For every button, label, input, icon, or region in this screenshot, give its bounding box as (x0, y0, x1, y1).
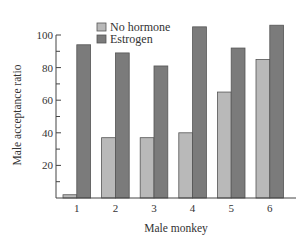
x-tick-label: 2 (113, 202, 119, 214)
y-tick-label: 20 (42, 159, 54, 171)
x-axis: 123456 (56, 198, 296, 214)
bar-estrogen-monkey-6 (270, 25, 284, 198)
bar-estrogen-monkey-3 (154, 66, 168, 198)
x-axis-title: Male monkey (144, 222, 208, 235)
y-tick-label: 40 (42, 127, 54, 139)
bars-group (63, 25, 284, 198)
legend: No hormoneEstrogen (97, 20, 170, 46)
legend-swatch-estrogen (97, 35, 106, 43)
legend-label: Estrogen (110, 32, 153, 46)
bar-no-hormone-monkey-3 (140, 138, 154, 198)
y-tick-label: 80 (42, 62, 54, 74)
legend-swatch-no-hormone (97, 23, 106, 31)
bar-chart: 20406080100 123456 Male acceptance ratio… (0, 0, 305, 238)
bar-no-hormone-monkey-6 (256, 59, 270, 198)
x-tick-label: 4 (190, 202, 196, 214)
bar-estrogen-monkey-2 (115, 53, 129, 198)
x-tick-label: 6 (267, 202, 273, 214)
bar-no-hormone-monkey-2 (102, 138, 116, 198)
y-axis: 20406080100 (37, 29, 62, 198)
x-tick-label: 3 (151, 202, 157, 214)
x-tick-label: 1 (74, 202, 80, 214)
bar-no-hormone-monkey-5 (217, 92, 231, 198)
bar-estrogen-monkey-1 (77, 45, 91, 198)
x-tick-label: 5 (228, 202, 234, 214)
bar-estrogen-monkey-5 (231, 48, 245, 198)
bar-no-hormone-monkey-4 (179, 133, 193, 198)
y-tick-label: 100 (37, 29, 54, 41)
y-axis-title: Male acceptance ratio (11, 64, 24, 165)
y-tick-label: 60 (42, 94, 54, 106)
bar-estrogen-monkey-4 (193, 27, 207, 198)
